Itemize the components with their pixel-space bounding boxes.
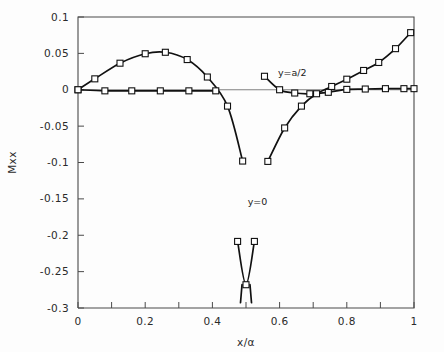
data-point-marker <box>282 125 288 131</box>
data-point-marker <box>184 57 190 63</box>
series-y-0 <box>75 30 414 303</box>
data-point-marker <box>307 91 313 97</box>
data-point-marker <box>92 76 98 82</box>
singularity-tail-right <box>250 285 252 303</box>
data-point-marker <box>362 86 368 92</box>
data-point-marker <box>411 86 417 92</box>
y-axis-tick-label: 0.1 <box>51 11 69 23</box>
data-point-marker <box>329 83 335 89</box>
data-point-marker <box>102 88 108 94</box>
chart-figure: 0.10.050-0.05-0.1-0.15-0.2-0.25-0.300.20… <box>0 0 444 352</box>
y-axis-title: Mxx <box>6 151 18 174</box>
series-y-a-2 <box>75 49 417 164</box>
data-point-marker <box>382 86 388 92</box>
curve-annotation-label: y=a/2 <box>278 67 307 78</box>
data-point-marker <box>376 59 382 65</box>
data-point-marker <box>213 88 219 94</box>
y-axis-tick-label: 0.05 <box>44 47 69 59</box>
curve-annotation-label: y=0 <box>248 196 268 207</box>
y-axis-tick-label: -0.3 <box>47 302 69 314</box>
y-axis-tick-label: -0.2 <box>47 229 69 241</box>
y-axis-tick-label: 0 <box>62 83 69 95</box>
data-curve <box>78 52 243 161</box>
data-point-marker <box>292 90 298 96</box>
data-point-marker <box>142 51 148 57</box>
data-point-marker <box>162 49 168 55</box>
data-point-marker <box>204 74 210 80</box>
data-point-marker <box>251 238 257 244</box>
data-point-marker <box>298 103 304 109</box>
x-axis-tick-label: 0.8 <box>338 315 356 327</box>
data-curve <box>264 76 414 93</box>
data-point-marker <box>314 91 320 97</box>
y-axis-tick-label: -0.15 <box>40 192 69 204</box>
data-point-marker <box>225 103 231 109</box>
x-axis-tick-label: 0 <box>74 315 81 327</box>
data-point-marker <box>401 86 407 92</box>
data-point-marker <box>75 87 81 93</box>
data-point-marker <box>261 73 267 79</box>
x-axis-tick-label: 0.6 <box>271 315 289 327</box>
x-axis-title: x/α <box>237 336 255 348</box>
data-point-marker <box>277 87 283 93</box>
data-point-marker <box>157 88 163 94</box>
data-point-marker <box>240 158 246 164</box>
data-curve <box>238 241 255 284</box>
data-point-marker <box>344 76 350 82</box>
data-point-marker <box>393 46 399 52</box>
data-point-marker <box>186 88 192 94</box>
singularity-tail-left <box>241 285 243 303</box>
x-axis-tick-label: 0.2 <box>136 315 154 327</box>
data-point-marker <box>325 89 331 95</box>
data-point-marker <box>129 88 135 94</box>
data-point-marker <box>361 67 367 73</box>
chart-svg: 0.10.050-0.05-0.1-0.15-0.2-0.25-0.300.20… <box>0 0 444 352</box>
y-axis-tick-label: -0.05 <box>40 120 69 132</box>
data-point-marker <box>344 86 350 92</box>
x-axis-tick-label: 1 <box>410 315 417 327</box>
data-point-marker <box>235 238 241 244</box>
data-point-marker <box>265 158 271 164</box>
y-axis-tick-label: -0.1 <box>47 156 69 168</box>
x-axis-tick-label: 0.4 <box>203 315 221 327</box>
data-curve <box>268 33 411 162</box>
y-axis-tick-label: -0.25 <box>40 265 69 277</box>
data-point-marker <box>408 30 414 36</box>
data-point-marker <box>117 60 123 66</box>
data-point-marker <box>243 282 249 288</box>
